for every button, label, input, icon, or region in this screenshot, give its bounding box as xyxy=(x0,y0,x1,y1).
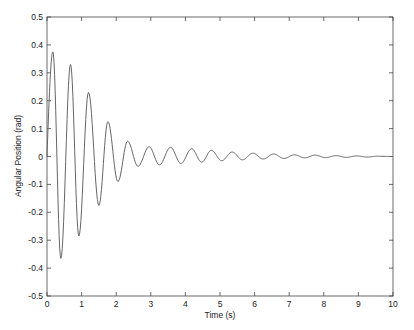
x-tick-label: 8 xyxy=(321,299,326,309)
y-tick-label: -0.1 xyxy=(28,179,43,189)
x-tick-label: 10 xyxy=(388,299,398,309)
x-tick-label: 2 xyxy=(114,299,119,309)
x-tick-label: 3 xyxy=(148,299,153,309)
y-tick-label: -0.2 xyxy=(28,207,43,217)
y-tick-label: -0.3 xyxy=(28,235,43,245)
y-tick-label: 0.3 xyxy=(31,68,43,78)
x-tick-label: 7 xyxy=(287,299,292,309)
x-tick-label: 1 xyxy=(79,299,84,309)
y-axis-label: Angular Position (rad) xyxy=(13,115,23,197)
y-tick-label: 0.2 xyxy=(31,96,43,106)
x-tick-label: 9 xyxy=(356,299,361,309)
y-tick-label: -0.4 xyxy=(28,263,43,273)
x-tick-label: 6 xyxy=(252,299,257,309)
x-axis-label: Time (s) xyxy=(205,310,236,320)
x-tick-label: 5 xyxy=(218,299,223,309)
y-tick-label: 0.1 xyxy=(31,124,43,134)
x-tick-label: 0 xyxy=(45,299,50,309)
y-tick-label: 0 xyxy=(38,152,43,162)
x-tick-label: 4 xyxy=(183,299,188,309)
line-chart: 012345678910 -0.5-0.4-0.3-0.2-0.100.10.2… xyxy=(0,0,414,330)
y-tick-label: 0.4 xyxy=(31,40,43,50)
y-tick-label: -0.5 xyxy=(28,291,43,301)
y-tick-label: 0.5 xyxy=(31,12,43,22)
